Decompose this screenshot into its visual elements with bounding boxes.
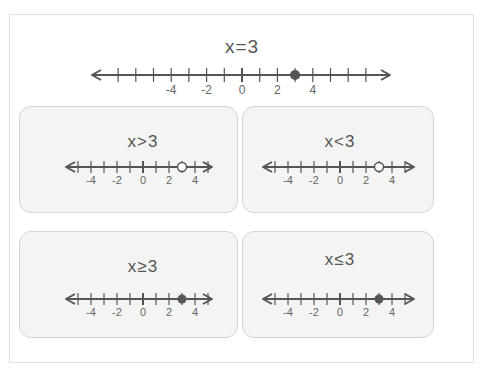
closed-point-icon	[178, 295, 187, 304]
tick-label: 0	[140, 174, 146, 186]
tick-label: -2	[309, 174, 319, 186]
tick-label: 2	[166, 306, 172, 318]
tick-label: -4	[283, 174, 293, 186]
tick-label: -4	[86, 174, 96, 186]
number-line-greater-equal: -4-2024	[66, 293, 212, 318]
tick-label: -4	[166, 83, 177, 97]
number-lines: -4-2024 -4-2024 -4-2024 -4-2024 -4-2024	[0, 0, 484, 374]
tick-label: -2	[112, 306, 122, 318]
tick-label: 4	[309, 83, 316, 97]
number-line-less-equal: -4-2024	[263, 293, 414, 318]
tick-label: 0	[337, 306, 343, 318]
tick-label: -4	[86, 306, 96, 318]
tick-label: 2	[166, 174, 172, 186]
tick-label: 0	[140, 306, 146, 318]
tick-label: -2	[309, 306, 319, 318]
tick-label: 4	[389, 306, 395, 318]
open-point-icon	[178, 163, 187, 172]
tick-label: 2	[274, 83, 281, 97]
tick-label: 2	[363, 306, 369, 318]
tick-label: 4	[192, 174, 198, 186]
closed-point-icon	[375, 295, 384, 304]
tick-label: 2	[363, 174, 369, 186]
number-line-greater-than: -4-2024	[66, 161, 212, 186]
closed-point-icon	[290, 70, 300, 80]
tick-label: -2	[201, 83, 212, 97]
tick-label: 4	[389, 174, 395, 186]
tick-label: -2	[112, 174, 122, 186]
tick-label: 0	[337, 174, 343, 186]
number-line-less-than: -4-2024	[263, 161, 414, 186]
open-point-icon	[375, 163, 384, 172]
tick-label: 0	[239, 83, 246, 97]
tick-label: -4	[283, 306, 293, 318]
number-line-equals: -4-2024	[92, 68, 390, 97]
tick-label: 4	[192, 306, 198, 318]
